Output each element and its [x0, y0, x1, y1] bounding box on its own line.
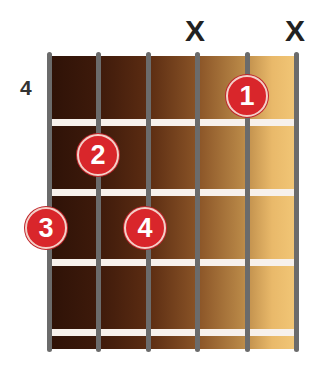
mute-marker-icon: X [285, 16, 305, 46]
finger-dot-2: 2 [77, 134, 119, 176]
mute-marker-icon: X [185, 16, 205, 46]
string-1 [294, 52, 299, 352]
fret-wire-2 [49, 189, 297, 196]
fret-wire-4 [49, 329, 297, 336]
fret-wire-1 [49, 119, 297, 126]
finger-dot-4: 4 [124, 207, 166, 249]
start-fret-label: 4 [20, 76, 32, 100]
finger-dot-3: 3 [25, 207, 67, 249]
string-5 [96, 52, 101, 352]
fret-wire-3 [49, 259, 297, 266]
string-6 [47, 52, 52, 352]
finger-dot-1: 1 [226, 75, 268, 117]
string-3 [195, 52, 200, 352]
string-4 [146, 52, 151, 352]
